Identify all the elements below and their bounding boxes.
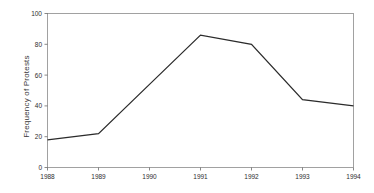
x-tick-label: 1990 (142, 173, 157, 180)
axis-frame (48, 14, 354, 168)
plot-area: 020406080100 198819891990199119921993199… (0, 0, 374, 193)
x-tick-label: 1993 (295, 173, 310, 180)
y-tick-label: 40 (35, 102, 43, 109)
y-tick-label: 100 (31, 10, 42, 17)
y-tick-label: 60 (35, 72, 43, 79)
x-tick-label: 1989 (91, 173, 106, 180)
x-axis-ticks: 1988198919901991199219931994 (40, 168, 361, 180)
data-series-line (48, 35, 354, 140)
y-axis-ticks: 020406080100 (31, 10, 47, 171)
y-tick-label: 80 (35, 41, 43, 48)
x-tick-label: 1994 (346, 173, 361, 180)
x-tick-label: 1988 (40, 173, 55, 180)
plot-frame (48, 14, 354, 168)
x-tick-label: 1992 (244, 173, 259, 180)
y-tick-label: 0 (38, 164, 42, 171)
x-tick-label: 1991 (193, 173, 208, 180)
y-tick-label: 20 (35, 133, 43, 140)
line-chart: Frequency of Protests 020406080100 19881… (0, 0, 374, 193)
